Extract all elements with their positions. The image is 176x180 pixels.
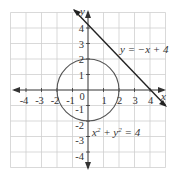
x-tick-labels: -4 -3 -2 -1 1 2 3 4 <box>20 95 154 106</box>
circle-label-end: = 4 <box>122 126 141 138</box>
x-tick-label: -2 <box>51 95 60 106</box>
x-tick-label: -1 <box>66 95 75 106</box>
y-axis-down-arrow-icon <box>85 162 91 170</box>
x-tick-label: -4 <box>20 95 29 106</box>
y-tick-label: -1 <box>75 104 84 115</box>
origin-label: 0 <box>79 91 84 102</box>
x-axis-left-arrow-icon <box>12 87 20 93</box>
x-tick-label: 2 <box>117 95 122 106</box>
line-equation-label: y = −x + 4 <box>119 43 169 55</box>
y-tick-label: -2 <box>75 120 84 131</box>
x-axis-label: x <box>160 90 166 102</box>
x-tick-label: 1 <box>101 95 106 106</box>
x-tick-label: 3 <box>132 95 137 106</box>
y-tick-label: -4 <box>75 151 84 162</box>
y-tick-label: 3 <box>79 39 84 50</box>
y-tick-label: -3 <box>75 135 84 146</box>
y-tick-label: 1 <box>79 70 84 81</box>
y-tick-label: 4 <box>79 23 85 34</box>
x-tick-label: 4 <box>148 95 154 106</box>
y-axis-label: y <box>79 5 85 17</box>
x-tick-label: -3 <box>35 95 44 106</box>
coordinate-plane-figure: -4 -3 -2 -1 1 2 3 4 0 4 3 2 1 -1 -2 -3 -… <box>0 0 176 180</box>
circle-label-mid: + y <box>100 126 118 138</box>
y-tick-label: 2 <box>79 54 84 65</box>
y-axis-up-arrow-icon <box>85 10 91 18</box>
